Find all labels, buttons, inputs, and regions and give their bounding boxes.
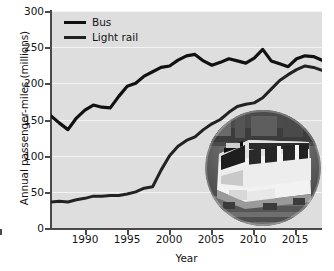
legend-label-bus: Bus	[92, 15, 111, 30]
legend-label-light-rail: Light rail	[92, 30, 138, 45]
legend-item-bus: Bus	[64, 15, 138, 30]
light-rail-train-photo	[205, 110, 321, 226]
legend-swatch-light-rail	[64, 36, 86, 39]
chart-legend: Bus Light rail	[64, 15, 138, 45]
chart-figure: 300 250 200 150 100 50 0 1990 1995 2000 …	[0, 0, 334, 271]
legend-item-light-rail: Light rail	[64, 30, 138, 45]
legend-swatch-bus	[64, 21, 86, 24]
